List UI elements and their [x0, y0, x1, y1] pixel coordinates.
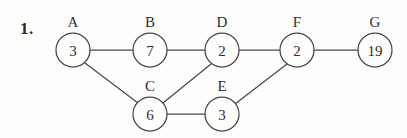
graph-node-label-e: E: [217, 78, 226, 94]
graph-node-a[interactable]: A3: [56, 14, 90, 67]
graph-node-label-g: G: [370, 14, 381, 30]
graph-edge-c-d: [163, 64, 211, 103]
graph-node-label-a: A: [68, 14, 79, 30]
graph-node-value-g: 19: [368, 43, 383, 59]
graph-nodes-group: A3B7D2F2G19C6E3: [56, 14, 392, 131]
graph-node-label-b: B: [145, 14, 155, 30]
graph-node-e[interactable]: E3: [205, 78, 239, 131]
graph-node-value-e: 3: [218, 107, 226, 123]
graph-node-f[interactable]: F2: [280, 14, 314, 67]
graph-node-label-c: C: [145, 78, 155, 94]
graph-node-label-d: D: [217, 14, 228, 30]
graph-node-b[interactable]: B7: [133, 14, 167, 67]
graph-node-label-f: F: [293, 14, 301, 30]
graph-edge-a-c: [85, 63, 138, 103]
graph-node-value-d: 2: [218, 43, 226, 59]
graph-node-value-a: 3: [69, 43, 77, 59]
graph-node-c[interactable]: C6: [133, 78, 167, 131]
graph-node-value-b: 7: [146, 43, 154, 59]
graph-node-value-c: 6: [146, 107, 154, 123]
graph-figure-screenshot: 1. A3B7D2F2G19C6E3: [0, 0, 407, 138]
graph-node-value-f: 2: [293, 43, 301, 59]
graph-diagram: A3B7D2F2G19C6E3: [0, 0, 407, 138]
graph-edge-e-f: [235, 64, 287, 104]
graph-node-d[interactable]: D2: [205, 14, 239, 67]
graph-node-g[interactable]: G19: [358, 14, 392, 67]
